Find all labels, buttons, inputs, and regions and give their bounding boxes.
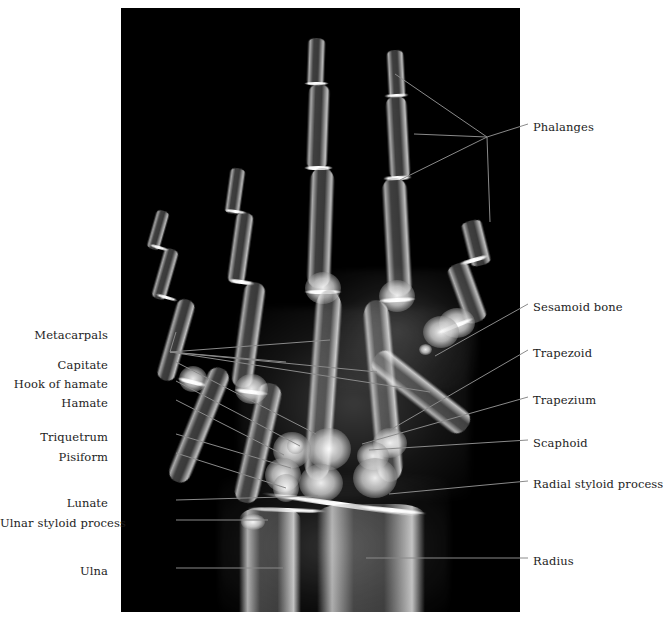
label-metacarpals: Metacarpals: [0, 329, 108, 341]
label-radius: Radius: [533, 555, 574, 567]
label-hamate: Hamate: [0, 397, 108, 409]
label-ulna: Ulna: [0, 565, 108, 577]
figure-caption: [121, 612, 520, 625]
label-ulnar-styloid-process: Ulnar styloid process: [0, 517, 108, 529]
label-trapezium: Trapezium: [533, 394, 596, 406]
label-capitate: Capitate: [0, 359, 108, 371]
label-sesamoid-bone: Sesamoid bone: [533, 301, 623, 313]
label-trapezoid: Trapezoid: [533, 347, 592, 359]
label-radial-styloid-process: Radial styloid process: [533, 478, 663, 490]
label-pisiform: Pisiform: [0, 451, 108, 463]
label-hook-of-hamate: Hook of hamate: [0, 378, 108, 390]
label-scaphoid: Scaphoid: [533, 437, 588, 449]
label-triquetrum: Triquetrum: [0, 431, 108, 443]
hand-radiograph-plate: [121, 8, 520, 612]
radiograph-image: [121, 8, 520, 612]
label-lunate: Lunate: [0, 497, 108, 509]
label-phalanges: Phalanges: [533, 121, 594, 133]
